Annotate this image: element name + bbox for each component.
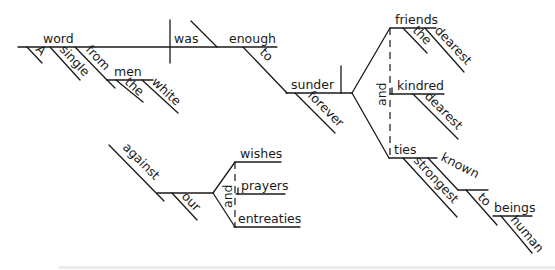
sentence-diagram: word was enough A single from men the wh… bbox=[0, 0, 555, 270]
conjunction-and-objects: and bbox=[374, 82, 389, 106]
prep-against: against bbox=[120, 140, 163, 183]
participle-object-beings: beings bbox=[494, 200, 535, 215]
against-phrase: against our and wishes prayers entreatie… bbox=[109, 140, 301, 227]
object-ties: ties bbox=[394, 142, 417, 157]
modifier-human: human bbox=[508, 212, 548, 255]
participle-prep-to: to bbox=[475, 190, 494, 209]
predicate-adjective-word: enough bbox=[229, 31, 276, 46]
against-object-entreaties: entreaties bbox=[238, 211, 301, 226]
against-conjunction-and: and bbox=[220, 184, 235, 208]
verb-word: was bbox=[174, 31, 198, 46]
object-kindred: kindred bbox=[397, 78, 444, 93]
against-object-wishes: wishes bbox=[240, 146, 282, 161]
object-friends: friends bbox=[395, 12, 438, 27]
from-extension bbox=[107, 80, 115, 88]
main-clause: word was enough A single from men the wh… bbox=[18, 20, 277, 113]
scan-band bbox=[58, 266, 555, 269]
modifier-dearest-kindred: dearest bbox=[422, 89, 466, 133]
against-object-prayers: prayers bbox=[241, 178, 288, 193]
from-object-men: men bbox=[114, 64, 142, 79]
